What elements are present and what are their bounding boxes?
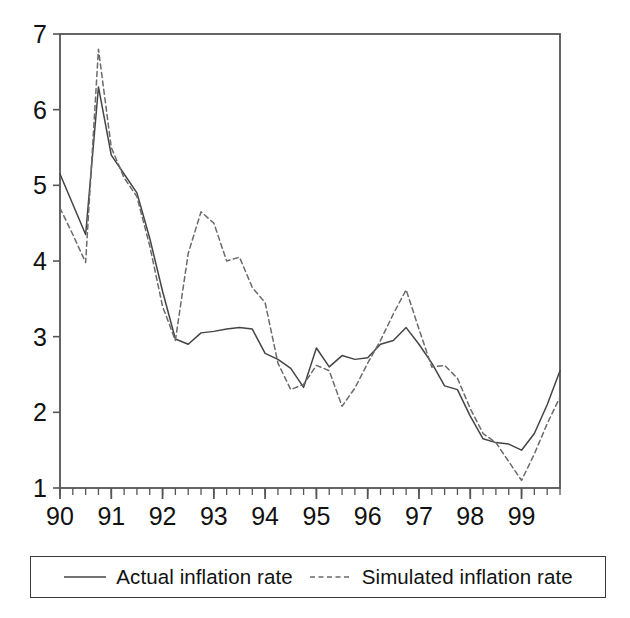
x-tick-label: 98 xyxy=(456,502,484,530)
x-tick-label: 93 xyxy=(200,502,228,530)
chart-legend: Actual inflation rate Simulated inflatio… xyxy=(30,556,606,598)
plot-frame xyxy=(60,34,560,488)
legend-entry-simulated: Simulated inflation rate xyxy=(309,565,573,589)
series-line-simulated-inflation-rate xyxy=(60,49,560,480)
y-tick-label: 6 xyxy=(33,96,47,124)
x-tick-label: 92 xyxy=(149,502,177,530)
x-axis-tick-labels: 90919293949596979899 xyxy=(46,502,535,530)
y-axis-ticks xyxy=(53,34,60,488)
y-tick-label: 2 xyxy=(33,398,47,426)
x-tick-label: 94 xyxy=(251,502,279,530)
inflation-line-chart: 1234567 90919293949596979899 xyxy=(0,0,630,618)
x-tick-label: 95 xyxy=(303,502,331,530)
dashed-line-swatch-icon xyxy=(309,571,353,583)
y-tick-label: 4 xyxy=(33,247,47,275)
x-tick-label: 90 xyxy=(46,502,74,530)
y-tick-label: 3 xyxy=(33,323,47,351)
series-line-actual-inflation-rate xyxy=(60,87,560,450)
x-tick-label: 99 xyxy=(508,502,536,530)
x-tick-label: 91 xyxy=(97,502,125,530)
x-axis-minor-ticks xyxy=(60,488,560,495)
y-tick-label: 1 xyxy=(33,474,47,502)
x-tick-label: 96 xyxy=(354,502,382,530)
x-tick-label: 97 xyxy=(405,502,433,530)
y-tick-label: 7 xyxy=(33,20,47,48)
solid-line-swatch-icon xyxy=(63,571,107,583)
legend-label-actual: Actual inflation rate xyxy=(116,565,292,589)
chart-figure-root: 1234567 90919293949596979899 Actual infl… xyxy=(0,0,630,618)
legend-entry-actual: Actual inflation rate xyxy=(63,565,292,589)
legend-label-simulated: Simulated inflation rate xyxy=(362,565,573,589)
y-tick-label: 5 xyxy=(33,171,47,199)
y-axis-tick-labels: 1234567 xyxy=(33,20,47,502)
